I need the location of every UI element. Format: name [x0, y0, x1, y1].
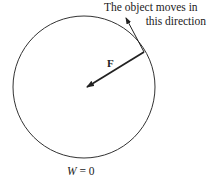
force-vector-arrow [87, 52, 144, 87]
circular-path [13, 16, 155, 158]
force-label: F [107, 58, 114, 69]
direction-caption-line2: this direction [146, 16, 206, 28]
work-symbol: W [67, 165, 77, 177]
direction-caption-line1: The object moves in [104, 2, 198, 14]
work-value: = 0 [77, 165, 95, 177]
velocity-direction-arrow [126, 18, 144, 52]
work-equation: W = 0 [67, 166, 95, 178]
